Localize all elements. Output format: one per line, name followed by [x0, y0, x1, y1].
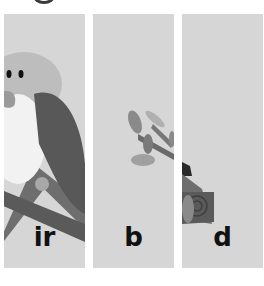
- card-label: b: [93, 224, 174, 250]
- card-label: ir: [4, 224, 85, 250]
- picture-card-3[interactable]: d: [182, 14, 263, 268]
- number-circle-icon: [33, 0, 55, 4]
- picture-card-1[interactable]: ir: [4, 14, 85, 268]
- picture-card-2[interactable]: b: [93, 14, 174, 268]
- card-label: d: [182, 224, 263, 250]
